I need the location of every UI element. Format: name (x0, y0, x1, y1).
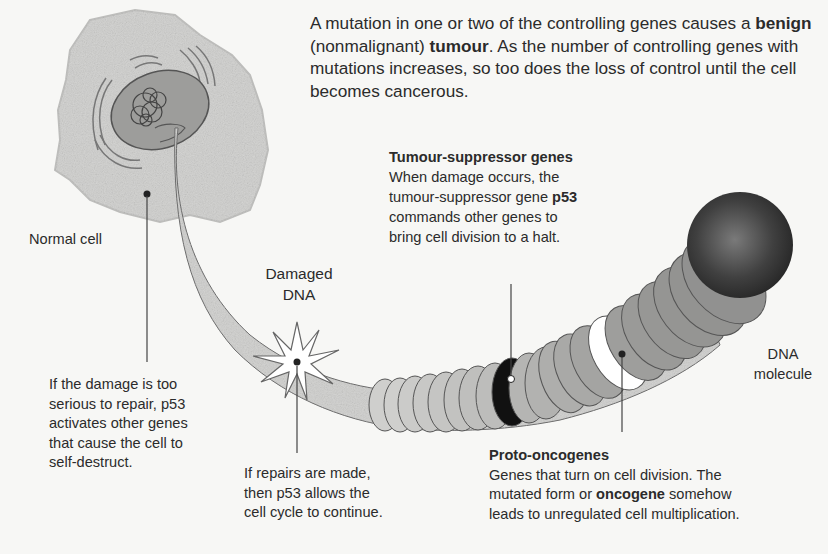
label-line: molecule (738, 364, 828, 384)
callout-line: mutated form or oncogene somehow (489, 485, 828, 505)
callout-line: activates other genes (49, 414, 239, 434)
callout-line: that cause the cell to (49, 434, 239, 454)
callout-text: somehow (665, 486, 732, 502)
dna-molecule-end-sphere (687, 192, 793, 298)
intro-text: A mutation in one or two of the controll… (310, 13, 755, 33)
callout-line: commands other genes to (389, 207, 629, 227)
callout-line: Genes that turn on cell division. The (489, 466, 828, 486)
callout-text: tumour-suppressor gene (389, 189, 552, 205)
callout-line: self-destruct. (49, 453, 239, 473)
callout-line: then p53 allows the (244, 484, 444, 504)
label-line: DNA (254, 284, 344, 305)
callout-line: bring cell division to a halt. (389, 227, 629, 247)
term-benign: benign (755, 13, 811, 33)
tumour-suppressor-marker (508, 376, 515, 383)
callout-line: leads to unregulated cell multiplication… (489, 505, 828, 525)
label-line: Damaged (254, 263, 344, 284)
intro-text: (nonmalignant) (310, 36, 429, 56)
callout-line: When damage occurs, the (389, 167, 629, 187)
term-p53: p53 (552, 189, 577, 205)
proto-oncogenes-callout: Proto-oncogenes Genes that turn on cell … (489, 446, 828, 524)
normal-cell-label: Normal cell (29, 229, 102, 250)
self-destruct-callout: If the damage is too serious to repair, … (49, 375, 239, 473)
proto-oncogenes-heading: Proto-oncogenes (489, 446, 828, 466)
callout-line: cell cycle to continue. (244, 503, 444, 523)
damaged-dna-label: Damaged DNA (254, 263, 344, 305)
repairs-callout: If repairs are made, then p53 allows the… (244, 464, 444, 523)
normal-cell-illustration (55, 10, 268, 222)
term-oncogene: oncogene (596, 486, 665, 502)
callout-line: tumour-suppressor gene p53 (389, 187, 629, 207)
proto-oncogene-marker (619, 351, 626, 358)
dna-molecule-label: DNA molecule (738, 344, 828, 384)
tumour-suppressor-callout: Tumour-suppressor genes When damage occu… (389, 147, 629, 247)
term-tumour: tumour (429, 36, 488, 56)
callout-line: If repairs are made, (244, 464, 444, 484)
callout-line: serious to repair, p53 (49, 395, 239, 415)
callout-line: If the damage is too (49, 375, 239, 395)
tumour-suppressor-heading: Tumour-suppressor genes (389, 147, 629, 167)
label-line: DNA (738, 344, 828, 364)
callout-text: mutated form or (489, 486, 596, 502)
intro-paragraph: A mutation in one or two of the controll… (310, 12, 820, 102)
